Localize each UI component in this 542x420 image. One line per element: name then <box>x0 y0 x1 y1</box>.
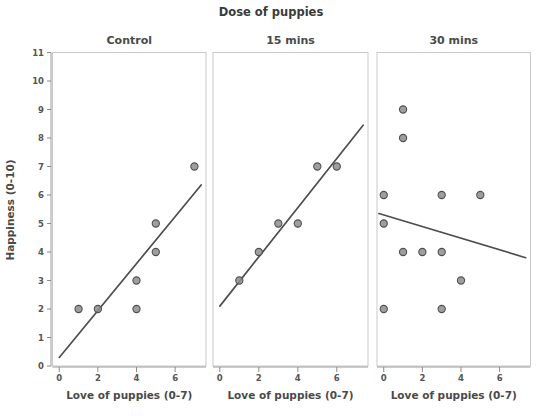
y-tick-label: 4 <box>38 247 44 257</box>
data-point <box>438 248 445 255</box>
data-point <box>133 305 140 312</box>
panel-30-mins: 30 mins0246Love of puppies (0-7) <box>377 34 531 401</box>
data-point <box>152 220 159 227</box>
y-tick-label: 3 <box>38 276 44 286</box>
x-tick-label: 6 <box>497 373 503 383</box>
x-tick-label: 0 <box>381 373 387 383</box>
y-axis: 01234567891011 <box>32 48 51 372</box>
y-tick-label: 8 <box>38 133 44 143</box>
data-point <box>294 220 301 227</box>
data-point <box>133 277 140 284</box>
panel-title: 15 mins <box>266 34 315 47</box>
x-tick-label: 2 <box>95 373 101 383</box>
y-tick-label: 6 <box>38 190 44 200</box>
data-point <box>419 248 426 255</box>
data-point <box>75 305 82 312</box>
figure-title: Dose of puppies <box>219 5 324 19</box>
x-tick-label: 2 <box>419 373 425 383</box>
data-point <box>457 277 464 284</box>
x-axis: 0246 <box>53 367 207 383</box>
y-tick-label: 7 <box>38 162 44 172</box>
panel-frame <box>213 53 368 367</box>
y-tick-label: 10 <box>32 76 44 86</box>
scatter-chart-figure: Dose of puppiesHappiness (0-10)012345678… <box>0 0 542 420</box>
data-point <box>380 191 387 198</box>
data-point <box>333 163 340 170</box>
data-point <box>94 305 101 312</box>
data-point <box>191 163 198 170</box>
x-tick-label: 4 <box>134 373 140 383</box>
data-point <box>477 191 484 198</box>
panel-frame <box>377 53 531 367</box>
x-axis-label: Love of puppies (0-7) <box>66 389 192 401</box>
data-point <box>255 248 262 255</box>
data-point <box>314 163 321 170</box>
y-tick-label: 0 <box>38 361 44 371</box>
x-tick-label: 2 <box>256 373 262 383</box>
x-tick-label: 6 <box>172 373 178 383</box>
x-tick-label: 4 <box>295 373 301 383</box>
data-point <box>399 248 406 255</box>
panel-title: Control <box>107 34 152 47</box>
data-point <box>380 305 387 312</box>
x-tick-label: 4 <box>458 373 464 383</box>
panel-title: 30 mins <box>429 34 478 47</box>
x-axis-label: Love of puppies (0-7) <box>227 389 353 401</box>
x-axis: 0246 <box>213 367 368 383</box>
data-point <box>438 305 445 312</box>
panel-frame <box>53 53 207 367</box>
data-point <box>399 134 406 141</box>
x-axis: 0246 <box>377 367 531 383</box>
x-tick-label: 0 <box>56 373 62 383</box>
x-tick-label: 6 <box>334 373 340 383</box>
x-tick-label: 0 <box>217 373 223 383</box>
y-tick-label: 1 <box>38 333 44 343</box>
data-point <box>399 106 406 113</box>
data-point <box>152 248 159 255</box>
panel-15-mins: 15 mins0246Love of puppies (0-7) <box>213 34 368 401</box>
y-tick-label: 9 <box>38 105 44 115</box>
data-point <box>438 191 445 198</box>
y-tick-label: 11 <box>32 48 44 58</box>
data-point <box>380 220 387 227</box>
y-tick-label: 5 <box>38 219 44 229</box>
chart-canvas: Dose of puppiesHappiness (0-10)012345678… <box>0 0 542 420</box>
y-tick-label: 2 <box>38 304 44 314</box>
data-point <box>236 277 243 284</box>
y-axis-label: Happiness (0-10) <box>4 159 16 260</box>
panel-control: Control0246Love of puppies (0-7) <box>53 34 207 401</box>
data-point <box>275 220 282 227</box>
x-axis-label: Love of puppies (0-7) <box>391 389 517 401</box>
